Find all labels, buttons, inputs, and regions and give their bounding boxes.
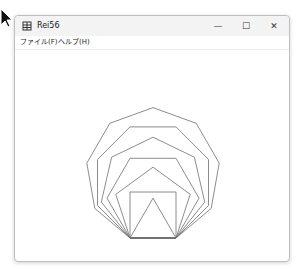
polygon-5-sides <box>116 167 190 238</box>
polygon-7-sides <box>101 137 204 238</box>
nested-polygons-drawing <box>0 0 305 270</box>
polygon-3-sides <box>130 198 176 238</box>
polygon-8-sides <box>98 127 209 238</box>
